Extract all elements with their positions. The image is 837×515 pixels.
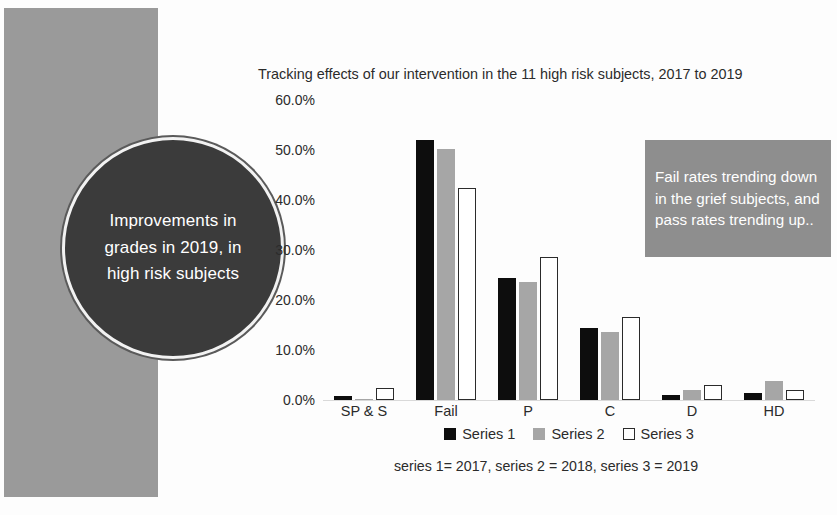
bar-hd-series-2: [765, 381, 783, 400]
legend-label: Series 1: [462, 426, 515, 442]
y-axis-tick: 40.0%: [275, 192, 315, 208]
bar-p-series-3: [540, 257, 558, 400]
legend-item-series-3: Series 3: [623, 426, 694, 442]
bar-hd-series-3: [786, 390, 804, 400]
y-axis-tick: 20.0%: [275, 292, 315, 308]
y-axis: 0.0%10.0%20.0%30.0%40.0%50.0%60.0%: [255, 100, 319, 400]
bar-d-series-3: [704, 385, 722, 400]
x-axis-label: D: [651, 403, 733, 419]
bar-d-series-2: [683, 390, 701, 400]
bar-fail-series-3: [458, 188, 476, 400]
legend-label: Series 2: [551, 426, 604, 442]
legend-item-series-2: Series 2: [533, 426, 604, 442]
footnote-text: series 1= 2017, series 2 = 2018, series …: [255, 458, 837, 474]
bar-p-series-1: [498, 278, 516, 400]
legend-label: Series 3: [641, 426, 694, 442]
bar-group: [405, 108, 487, 400]
bar-p-series-2: [519, 282, 537, 400]
bar-sp-s-series-3: [376, 388, 394, 400]
bar-hd-series-1: [744, 393, 762, 400]
slide-canvas: Improvements in grades in 2019, in high …: [0, 0, 837, 515]
x-axis-label: Fail: [405, 403, 487, 419]
legend-swatch-icon: [623, 428, 635, 440]
y-axis-tick: 10.0%: [275, 342, 315, 358]
y-axis-tick: 0.0%: [283, 392, 315, 408]
circle-callout-text: Improvements in grades in 2019, in high …: [93, 208, 253, 287]
bar-chart: Tracking effects of our intervention in …: [255, 60, 837, 500]
y-axis-tick: 30.0%: [275, 242, 315, 258]
y-axis-tick: 60.0%: [275, 92, 315, 108]
bar-c-series-2: [601, 332, 619, 400]
bar-c-series-3: [622, 317, 640, 400]
bar-fail-series-1: [416, 140, 434, 400]
note-callout-box: Fail rates trending down in the grief su…: [645, 140, 831, 257]
x-axis-label: SP & S: [323, 403, 405, 419]
x-axis-label: C: [569, 403, 651, 419]
legend-swatch-icon: [444, 428, 456, 440]
bar-c-series-1: [580, 328, 598, 400]
x-axis-line: [323, 400, 815, 401]
x-axis-labels: SP & SFailPCDHD: [323, 403, 815, 419]
x-axis-label: HD: [733, 403, 815, 419]
bar-group: [569, 108, 651, 400]
x-axis-label: P: [487, 403, 569, 419]
note-callout-text: Fail rates trending down in the grief su…: [655, 166, 823, 231]
chart-legend: Series 1Series 2Series 3: [323, 426, 815, 442]
bar-group: [487, 108, 569, 400]
bar-group: [323, 108, 405, 400]
legend-swatch-icon: [533, 428, 545, 440]
legend-item-series-1: Series 1: [444, 426, 515, 442]
y-axis-tick: 50.0%: [275, 142, 315, 158]
circle-callout: Improvements in grades in 2019, in high …: [62, 137, 284, 359]
chart-title: Tracking effects of our intervention in …: [258, 66, 743, 82]
bar-fail-series-2: [437, 149, 455, 400]
